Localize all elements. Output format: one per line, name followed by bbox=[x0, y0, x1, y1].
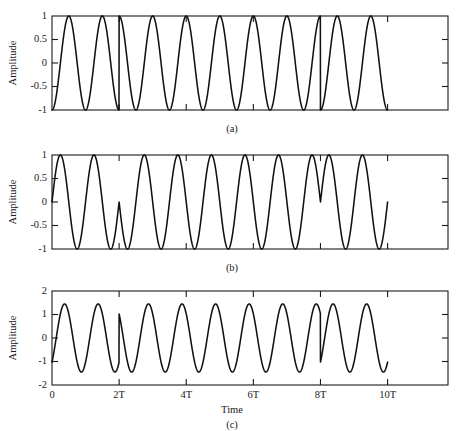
panel-caption: (c) bbox=[226, 419, 238, 431]
y-tick-label: -1 bbox=[38, 243, 47, 254]
waveform-curve bbox=[52, 304, 388, 372]
panel-caption: (a) bbox=[226, 123, 238, 135]
y-tick-label: 0 bbox=[42, 332, 47, 343]
y-tick-label: 0 bbox=[42, 196, 47, 207]
y-tick-label: 1 bbox=[42, 308, 47, 319]
x-tick-label: 0 bbox=[49, 389, 54, 400]
y-tick-label: 0.5 bbox=[34, 172, 47, 183]
panel-caption: (b) bbox=[226, 262, 239, 274]
y-tick-label: 1 bbox=[42, 149, 47, 160]
y-tick-label: 2 bbox=[42, 285, 47, 296]
y-tick-label: 1 bbox=[42, 10, 47, 21]
x-axis-title: Time bbox=[221, 404, 243, 415]
y-tick-label: 0 bbox=[42, 57, 47, 68]
x-tick-label: 8T bbox=[315, 389, 327, 400]
plot-b: 10.50-0.5-1Amplitude(b) bbox=[0, 137, 462, 277]
x-tick-label: 6T bbox=[248, 389, 260, 400]
panel-b: 10.50-0.5-1Amplitude(b) bbox=[0, 137, 462, 277]
waveform-curve bbox=[52, 16, 388, 110]
y-axis-title: Amplitude bbox=[7, 179, 18, 224]
x-tick-label: 4T bbox=[180, 389, 192, 400]
y-tick-label: 0.5 bbox=[34, 33, 47, 44]
plot-c: 210-1-202T4T6T8T10TAmplitudeTime(c) bbox=[0, 277, 462, 431]
y-axis-title: Amplitude bbox=[7, 40, 18, 85]
plot-a: 10.50-0.5-1Amplitude(a) bbox=[0, 0, 462, 140]
y-tick-label: -1 bbox=[38, 355, 47, 366]
y-tick-label: -0.5 bbox=[30, 219, 47, 230]
y-tick-label: -2 bbox=[38, 379, 47, 390]
x-tick-label: 10T bbox=[379, 389, 397, 400]
panel-c: 210-1-202T4T6T8T10TAmplitudeTime(c) bbox=[0, 277, 462, 431]
y-axis-title: Amplitude bbox=[7, 315, 18, 360]
panel-a: 10.50-0.5-1Amplitude(a) bbox=[0, 0, 462, 140]
y-tick-label: -1 bbox=[38, 104, 47, 115]
waveform-curve bbox=[52, 155, 388, 249]
y-tick-label: -0.5 bbox=[30, 80, 47, 91]
x-tick-label: 2T bbox=[113, 389, 125, 400]
